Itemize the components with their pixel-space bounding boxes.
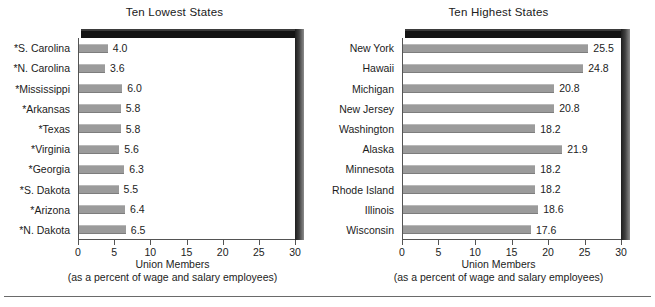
x-tick-label: 0: [399, 246, 405, 258]
category-label: *S. Dakota: [0, 179, 74, 199]
bar: [79, 64, 105, 73]
bar-value-label: 6.4: [130, 204, 145, 215]
bar-value-label: 18.2: [540, 124, 560, 135]
category-label: *Arkansas: [0, 99, 74, 119]
bar-row: 18.2: [403, 179, 621, 199]
x-tick-label: 20: [542, 246, 554, 258]
bar-row: 5.5: [79, 179, 295, 199]
category-label: *Virginia: [0, 139, 74, 159]
x-tick-label: 25: [253, 246, 265, 258]
bar: [79, 124, 121, 133]
bar-value-label: 20.8: [559, 83, 579, 94]
bar-row: 20.8: [403, 78, 621, 98]
category-label: *Mississippi: [0, 78, 74, 98]
bar-value-label: 24.8: [588, 63, 608, 74]
bar-value-label: 20.8: [559, 103, 579, 114]
category-label: New York: [328, 38, 398, 58]
bar-value-label: 5.6: [124, 144, 139, 155]
backdrop-side-band-left: [295, 29, 304, 240]
bar-row: 4.0: [79, 38, 295, 58]
bar: [79, 185, 119, 194]
bar-value-label: 18.6: [543, 204, 563, 215]
category-label: *Georgia: [0, 159, 74, 179]
bar-row: 5.8: [79, 99, 295, 119]
bar-row: 25.5: [403, 38, 621, 58]
x-tick-label: 5: [111, 246, 117, 258]
category-label: *N. Carolina: [0, 58, 74, 78]
category-label: Alaska: [328, 139, 398, 159]
footer-divider: [4, 296, 651, 297]
bar-row: 6.4: [79, 200, 295, 220]
bar: [403, 165, 535, 174]
bar-row: 18.6: [403, 200, 621, 220]
bar-row: 18.2: [403, 119, 621, 139]
category-label: Hawaii: [328, 58, 398, 78]
x-axis-caption-right: Union Members (as a percent of wage and …: [328, 258, 655, 284]
bar: [79, 104, 121, 113]
category-label: Michigan: [328, 78, 398, 98]
bar: [403, 225, 531, 234]
bar-value-label: 5.8: [126, 103, 141, 114]
bar-value-label: 6.3: [129, 164, 144, 175]
bar-row: 3.6: [79, 58, 295, 78]
bar: [403, 205, 538, 214]
x-tick-label: 30: [615, 246, 627, 258]
x-tick-label: 15: [181, 246, 193, 258]
x-tick-label: 0: [75, 246, 81, 258]
category-label: *Texas: [0, 119, 74, 139]
bar-value-label: 6.5: [131, 225, 146, 236]
bar-rows-right: 25.524.820.820.818.221.918.218.218.617.6: [403, 38, 621, 240]
category-label: Illinois: [328, 200, 398, 220]
bar-row: 6.0: [79, 78, 295, 98]
bar: [79, 145, 119, 154]
category-label: *S. Carolina: [0, 38, 74, 58]
x-axis-title-left: Union Members: [0, 258, 327, 271]
x-axis-title-right: Union Members: [328, 258, 655, 271]
bar: [403, 44, 588, 53]
x-axis-tick-labels-right: 051015202530: [402, 240, 621, 254]
category-label: Rhode Island: [328, 179, 398, 199]
x-axis-tick-labels-left: 051015202530: [78, 240, 295, 254]
category-label: *Arizona: [0, 200, 74, 220]
x-tick-label: 15: [506, 246, 518, 258]
bar: [403, 64, 583, 73]
category-label: Minnesota: [328, 159, 398, 179]
category-axis-labels-left: *S. Carolina*N. Carolina*Mississippi*Ark…: [0, 38, 74, 240]
backdrop-side-band-right: [621, 29, 630, 240]
x-tick-label: 10: [469, 246, 481, 258]
bar-row: 6.3: [79, 159, 295, 179]
x-tick: [295, 240, 296, 245]
figure: Ten Lowest States *S. Carolina*N. Caroli…: [0, 0, 655, 307]
x-tick: [621, 240, 622, 245]
x-axis-caption-left: Union Members (as a percent of wage and …: [0, 258, 327, 284]
backdrop-top-band-left: [81, 29, 298, 38]
bar-value-label: 18.2: [540, 184, 560, 195]
bar-row: 5.6: [79, 139, 295, 159]
bar: [403, 145, 562, 154]
bar: [79, 225, 126, 234]
bar-rows-left: 4.03.66.05.85.85.66.35.56.46.5: [79, 38, 295, 240]
bar-row: 21.9: [403, 139, 621, 159]
x-tick-label: 10: [144, 246, 156, 258]
plot-area-right: 25.524.820.820.818.221.918.218.218.617.6…: [402, 38, 621, 240]
chart-panel-ten-highest-states: Ten Highest States New YorkHawaiiMichiga…: [328, 0, 655, 292]
bar-value-label: 18.2: [540, 164, 560, 175]
chart-title-right: Ten Highest States: [328, 6, 655, 18]
bar-value-label: 3.6: [110, 63, 125, 74]
bar-value-label: 4.0: [113, 43, 128, 54]
bar-value-label: 5.5: [124, 184, 139, 195]
category-axis-labels-right: New YorkHawaiiMichiganNew JerseyWashingt…: [328, 38, 398, 240]
bar-row: 24.8: [403, 58, 621, 78]
chart-title-left: Ten Lowest States: [0, 6, 327, 18]
x-tick-label: 5: [436, 246, 442, 258]
bar-row: 6.5: [79, 220, 295, 240]
bar-row: 17.6: [403, 220, 621, 240]
bar-row: 18.2: [403, 159, 621, 179]
bar-row: 20.8: [403, 99, 621, 119]
category-label: Washington: [328, 119, 398, 139]
bar-value-label: 6.0: [127, 83, 142, 94]
category-label: *N. Dakota: [0, 220, 74, 240]
bar-row: 5.8: [79, 119, 295, 139]
x-tick-label: 25: [579, 246, 591, 258]
bar-value-label: 5.8: [126, 124, 141, 135]
